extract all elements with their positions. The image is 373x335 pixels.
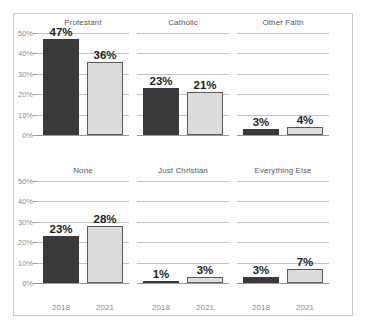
plot-area: 23%21%	[137, 33, 229, 135]
y-axis-tick-label: 50%	[18, 29, 33, 38]
bar-value-label: 36%	[79, 49, 131, 61]
bar-group: 3%4%	[237, 33, 329, 135]
bar-value-label: 21%	[179, 79, 231, 91]
bar-group: 3%7%	[237, 181, 329, 283]
facet-title: None	[27, 166, 139, 175]
bar-2018[interactable]	[243, 277, 279, 283]
axis-baseline	[37, 283, 129, 284]
plot-area: 0%10%20%30%40%50%23%28%20182021	[37, 181, 129, 283]
plot-area: 0%10%20%30%40%50%47%36%	[37, 33, 129, 135]
y-axis-tick-label: 0%	[22, 279, 33, 288]
x-axis-tick-label: 2021	[279, 303, 331, 312]
bar-2018[interactable]	[143, 281, 179, 283]
bar-value-label: 7%	[279, 256, 331, 268]
bar-value-label: 4%	[279, 114, 331, 126]
bar-value-label: 23%	[35, 223, 87, 235]
y-axis-tick-label: 40%	[18, 197, 33, 206]
axis-baseline	[37, 135, 129, 136]
facet-panel: Other Faith3%4%	[237, 18, 329, 163]
y-axis-tick-label: 20%	[18, 90, 33, 99]
axis-baseline	[237, 283, 329, 284]
y-axis-tick-label: 10%	[18, 258, 33, 267]
y-axis-tick-label: 10%	[18, 110, 33, 119]
facet-row: Protestant0%10%20%30%40%50%47%36%Catholi…	[14, 18, 354, 163]
y-axis-tick-mark	[33, 283, 37, 284]
y-axis-tick-label: 0%	[22, 131, 33, 140]
bar-2021[interactable]	[287, 269, 323, 283]
facet-row: None0%10%20%30%40%50%23%28%20182021Just …	[14, 166, 354, 311]
y-axis-tick-label: 50%	[18, 177, 33, 186]
y-axis-tick-label: 20%	[18, 238, 33, 247]
bar-group: 23%21%	[137, 33, 229, 135]
bar-value-label: 28%	[79, 213, 131, 225]
facet-panel: Everything Else3%7%20182021	[237, 166, 329, 311]
facet-title: Just Christian	[127, 166, 239, 175]
y-axis-tick-label: 30%	[18, 69, 33, 78]
axis-baseline	[237, 135, 329, 136]
plot-area: 3%7%20182021	[237, 181, 329, 283]
facet-panel: Catholic23%21%	[137, 18, 229, 163]
bar-2021[interactable]	[87, 226, 123, 283]
y-axis-tick-label: 40%	[18, 49, 33, 58]
bar-2018[interactable]	[43, 236, 79, 283]
bar-2018[interactable]	[43, 39, 79, 135]
facet-title: Catholic	[127, 18, 239, 27]
y-axis-tick-mark	[33, 135, 37, 136]
bar-2021[interactable]	[287, 127, 323, 135]
bar-value-label: 3%	[179, 264, 231, 276]
bar-2018[interactable]	[243, 129, 279, 135]
plot-area: 1%3%20182021	[137, 181, 229, 283]
x-axis-tick-label: 2021	[79, 303, 131, 312]
facet-panel: Protestant0%10%20%30%40%50%47%36%	[37, 18, 129, 163]
bar-group: 47%36%	[37, 33, 129, 135]
bar-group: 1%3%	[137, 181, 229, 283]
bar-value-label: 47%	[35, 26, 87, 38]
y-axis-tick-label: 30%	[18, 217, 33, 226]
bar-2021[interactable]	[187, 92, 223, 135]
chart-figure: Protestant0%10%20%30%40%50%47%36%Catholi…	[0, 0, 373, 335]
bar-2021[interactable]	[87, 62, 123, 135]
facet-grid: Protestant0%10%20%30%40%50%47%36%Catholi…	[14, 14, 354, 317]
facet-panel: Just Christian1%3%20182021	[137, 166, 229, 311]
chart-frame: Protestant0%10%20%30%40%50%47%36%Catholi…	[13, 13, 353, 316]
facet-panel: None0%10%20%30%40%50%23%28%20182021	[37, 166, 129, 311]
axis-baseline	[137, 135, 229, 136]
bar-2018[interactable]	[143, 88, 179, 135]
bar-group: 23%28%	[37, 181, 129, 283]
x-axis-tick-label: 2021	[179, 303, 231, 312]
facet-title: Everything Else	[227, 166, 339, 175]
axis-baseline	[137, 283, 229, 284]
facet-title: Other Faith	[227, 18, 339, 27]
plot-area: 3%4%	[237, 33, 329, 135]
bar-2021[interactable]	[187, 277, 223, 283]
